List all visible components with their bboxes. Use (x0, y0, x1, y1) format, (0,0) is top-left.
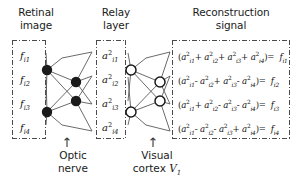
edge-f2-to-n2 (46, 77, 47, 112)
edge-n1-out-top (47, 52, 92, 70)
footer-optic-line1: Optic (46, 149, 100, 162)
cortex-node-open-2 (126, 107, 136, 117)
retinal-input-4-sub: i4 (24, 128, 30, 136)
relay-node-1: a2i1 (102, 49, 118, 64)
edge-m1-to-m4 (131, 70, 160, 101)
edge-n1-to-n3 (47, 70, 76, 82)
optic-node-filled-3 (71, 77, 81, 87)
equation-2-sign-2: + (214, 76, 221, 86)
equation-row-4: (a2i1- a2i2- a2i3+ a2i4)= fi4 (178, 123, 279, 136)
stage1-edges (46, 52, 92, 131)
retinal-input-2-sub: i2 (24, 80, 30, 88)
up-arrow-icon-optic: ↑ (60, 136, 74, 149)
retinal-input-1-sub: i1 (24, 56, 30, 64)
relay-node-1-sub: i1 (112, 56, 118, 64)
edge-n4-out-a4 (76, 101, 92, 131)
edge-n4-out-a3 (76, 101, 92, 104)
visual-cortex-symbol: V (169, 162, 177, 174)
optic-node-filled-4 (71, 96, 81, 106)
equation-1-sign-3: + (241, 52, 248, 62)
edge-m1-out-top (131, 52, 170, 70)
edge-n3-out-a2 (76, 76, 92, 82)
equation-4-sign-3: + (232, 124, 239, 134)
equation-row-1: (a2i1+ a2i2+ a2i3+ a2i4)= fi1 (178, 51, 288, 64)
edge-m4-out-r3 (160, 101, 170, 104)
edge-n3-out-a3 (76, 82, 92, 104)
cortex-node-open-4 (155, 96, 165, 106)
equation-4-result-sub: i4 (274, 130, 279, 136)
edge-m3-out-r1 (160, 52, 170, 82)
visual-cortex-sub: 1 (177, 169, 181, 177)
edge-f4-to-n2 (46, 112, 47, 125)
edge-m2-to-m4 (131, 101, 160, 112)
equation-3-sign-1: + (195, 100, 202, 110)
equation-4-sign-1: - (195, 124, 198, 134)
up-arrow-icon-visual: ↑ (146, 136, 160, 149)
cortex-node-open-1 (126, 65, 136, 75)
header-relay-layer: Relay layer (92, 6, 140, 31)
edge-m3-out-r3 (160, 82, 170, 104)
edge-m1-to-m3 (131, 70, 160, 82)
header-relay-line2: layer (92, 19, 140, 32)
edge-a1-to-m1 (128, 53, 131, 70)
cortex-node-open-3 (155, 77, 165, 87)
header-retinal-line1: Retinal (8, 6, 64, 19)
edge-n2-out-bottom (47, 112, 92, 131)
footer-visual-line1: Visual (124, 149, 190, 162)
stage2-node-group (126, 65, 165, 117)
header-retinal-line2: image (8, 19, 64, 32)
edge-n3-out-a1 (76, 52, 92, 82)
equation-3-sign-2: - (218, 100, 221, 110)
footer-optic-line2: nerve (46, 162, 100, 175)
equation-row-2: (a2i1- a2i2+ a2i3- a2i4)= fi2 (178, 75, 279, 88)
edge-m4-out-r2 (160, 76, 170, 101)
edge-n4-out-a2 (76, 76, 92, 101)
stage1-node-group (42, 65, 81, 117)
edge-a4-to-m2 (128, 112, 131, 125)
edge-m2-out-bottom (131, 112, 170, 131)
figure-root: Retinal image Relay layer Reconstruction… (0, 0, 297, 182)
relay-node-4: a2i4 (102, 121, 118, 136)
footer-visual-line2: cortex V1 (124, 162, 190, 180)
relay-node-3: a2i3 (102, 97, 118, 112)
edge-a3-to-m1 (128, 70, 131, 101)
header-relay-line1: Relay (92, 6, 140, 19)
header-reconstruction-signal: Reconstruction signal (172, 6, 290, 31)
relay-node-4-sub: i4 (112, 128, 118, 136)
edge-n2-to-n3 (47, 82, 76, 112)
retinal-input-1: fi1 (20, 50, 30, 64)
retinal-input-3-sub: i3 (24, 104, 30, 112)
relay-node-2-sub: i2 (112, 80, 118, 88)
edge-m4-out-r4 (160, 101, 170, 131)
equation-2-sign-1: - (195, 76, 198, 86)
equation-1-sign-2: + (218, 52, 225, 62)
equation-3-result-sub: i3 (274, 106, 279, 112)
edge-n1-to-n4 (47, 70, 76, 101)
footer-optic-nerve: Optic nerve (46, 149, 100, 174)
equation-4-sign-2: - (214, 124, 217, 134)
retinal-input-2: fi2 (20, 74, 30, 88)
edge-m2-to-m3 (131, 82, 160, 112)
header-retinal-image: Retinal image (8, 6, 64, 31)
relay-node-2: a2i2 (102, 73, 118, 88)
edge-f1-to-n1 (46, 53, 47, 70)
relay-node-3-sub: i3 (112, 104, 118, 112)
header-recon-line2: signal (172, 19, 290, 32)
edge-m3-out-r2 (160, 76, 170, 82)
footer-visual-prefix: cortex (133, 162, 169, 174)
retinal-input-3: fi3 (20, 98, 30, 112)
equation-2-sign-3: - (237, 76, 240, 86)
footer-visual-cortex: Visual cortex V1 (124, 149, 190, 179)
equation-3-sign-3: - (237, 100, 240, 110)
edge-a2-to-m2 (128, 77, 131, 112)
equation-1-result-sub: i1 (282, 58, 287, 64)
equation-1-sign-1: + (195, 52, 202, 62)
header-recon-line1: Reconstruction (172, 6, 290, 19)
retinal-input-4: fi4 (20, 122, 30, 136)
equation-2-result-sub: i2 (274, 82, 279, 88)
edge-f3-to-n1 (46, 70, 47, 101)
equation-row-3: (a2i1+ a2i2- a2i3- a2i4)= fi3 (178, 99, 279, 112)
stage2-edges (128, 52, 170, 131)
edge-n2-to-n4 (47, 101, 76, 112)
